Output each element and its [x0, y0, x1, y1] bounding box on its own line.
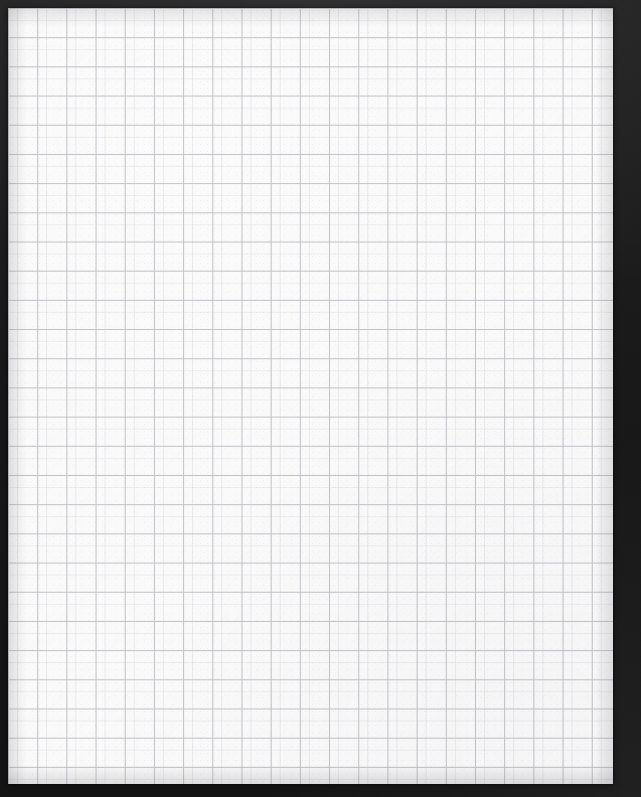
graph-grid-lines: [8, 8, 613, 784]
graph-paper-sheet: [8, 8, 613, 784]
graph-paper-scan: Blank graph paper sheet Scanned blank sh…: [0, 0, 641, 797]
